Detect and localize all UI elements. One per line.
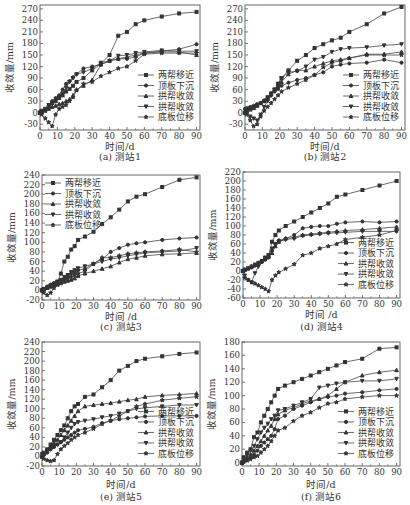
x-tick-label: 40 bbox=[105, 301, 116, 311]
panel-caption: (c) 测站3 bbox=[100, 321, 142, 332]
legend: 两帮移近顶板下沉拱帮收敛拱帮收敛底板位移 bbox=[45, 177, 101, 230]
data-point bbox=[99, 74, 103, 78]
data-point bbox=[63, 424, 66, 427]
data-point bbox=[256, 431, 259, 434]
y-tick-label: 0 bbox=[35, 451, 40, 461]
legend-label: 两帮移近 bbox=[158, 69, 194, 80]
data-point bbox=[144, 357, 147, 360]
data-point bbox=[160, 249, 164, 253]
data-point bbox=[143, 395, 147, 398]
legend-item: 拱帮收敛 bbox=[338, 268, 394, 279]
data-point bbox=[143, 415, 146, 418]
data-point bbox=[256, 438, 260, 441]
data-point bbox=[61, 88, 64, 91]
y-tick-label: 20 bbox=[229, 444, 240, 454]
data-point bbox=[100, 402, 104, 405]
data-point bbox=[378, 184, 381, 187]
data-point bbox=[92, 418, 96, 421]
panel-caption: (d) 测站4 bbox=[300, 321, 343, 332]
legend-item: 拱帮收敛 bbox=[343, 101, 399, 112]
data-point bbox=[400, 5, 403, 8]
y-tick-label: 200 bbox=[225, 176, 241, 186]
y-tick-label: 30 bbox=[232, 96, 243, 106]
data-point bbox=[276, 418, 279, 421]
data-point bbox=[135, 416, 138, 419]
x-tick-label: 80 bbox=[374, 467, 385, 477]
x-tick-label: 30 bbox=[88, 301, 99, 311]
data-point bbox=[135, 397, 139, 400]
data-point bbox=[327, 232, 331, 235]
data-point bbox=[117, 400, 121, 403]
x-tick-label: 60 bbox=[139, 131, 150, 141]
y-tick-label: 140 bbox=[24, 218, 40, 228]
y-tick-label: 270 bbox=[22, 4, 38, 14]
data-point bbox=[395, 346, 398, 349]
legend-marker-icon bbox=[144, 94, 148, 97]
x-tick-label: 60 bbox=[140, 467, 151, 477]
data-point bbox=[382, 53, 386, 57]
x-tick-label: 20 bbox=[271, 467, 282, 477]
data-point bbox=[300, 414, 304, 418]
y-tick-label: 40 bbox=[230, 248, 241, 258]
data-point bbox=[263, 414, 266, 417]
x-tick-label: 60 bbox=[340, 467, 351, 477]
data-point bbox=[339, 48, 343, 51]
data-point bbox=[378, 379, 382, 382]
legend-label: 拱帮收敛 bbox=[158, 437, 194, 448]
data-point bbox=[160, 398, 164, 402]
data-point bbox=[335, 382, 339, 385]
data-point bbox=[178, 12, 181, 15]
data-point bbox=[83, 395, 86, 398]
data-point bbox=[259, 431, 263, 434]
y-tick-label: 220 bbox=[225, 167, 241, 177]
data-point bbox=[161, 186, 164, 189]
legend-item: 拱帮收敛 bbox=[138, 90, 194, 101]
data-point bbox=[63, 260, 66, 263]
data-point bbox=[378, 233, 382, 237]
data-point bbox=[287, 81, 290, 84]
y-tick-label: 240 bbox=[24, 337, 40, 347]
x-tick-label: 20 bbox=[71, 301, 82, 311]
data-point bbox=[378, 370, 382, 373]
data-point bbox=[400, 61, 403, 64]
data-point bbox=[257, 265, 261, 268]
data-point bbox=[321, 55, 325, 58]
legend-label: 拱帮收敛 bbox=[158, 90, 194, 101]
y-tick-label: -60 bbox=[227, 293, 241, 303]
y-tick-label: 90 bbox=[232, 73, 243, 83]
legend: 两帮移近顶板下沉拱帮收敛拱帮收敛底板位移 bbox=[343, 69, 399, 122]
data-point bbox=[309, 234, 313, 237]
data-point bbox=[109, 216, 112, 219]
data-point bbox=[135, 242, 138, 245]
data-point bbox=[195, 414, 198, 417]
data-point bbox=[143, 250, 147, 254]
data-point bbox=[335, 364, 338, 367]
x-tick-label: 50 bbox=[322, 467, 333, 477]
data-point bbox=[335, 195, 338, 198]
data-point bbox=[318, 371, 321, 374]
data-point bbox=[259, 444, 262, 447]
y-tick-label: 220 bbox=[24, 180, 40, 190]
data-point bbox=[296, 59, 299, 62]
x-tick-label: 20 bbox=[274, 131, 285, 141]
data-point bbox=[266, 408, 269, 411]
data-point bbox=[339, 36, 342, 39]
data-point bbox=[143, 402, 147, 406]
data-point bbox=[283, 384, 286, 387]
y-tick-label: -20 bbox=[26, 461, 40, 471]
legend: 两帮移近顶板下沉拱帮收敛拱帮收敛底板位移 bbox=[338, 237, 394, 290]
x-tick-label: 0 bbox=[39, 301, 44, 311]
data-point bbox=[395, 228, 399, 232]
data-point bbox=[382, 44, 386, 47]
data-point bbox=[69, 275, 73, 279]
data-point bbox=[322, 43, 325, 46]
legend-marker-icon bbox=[350, 74, 353, 77]
data-point bbox=[383, 58, 386, 61]
legend-marker-icon bbox=[144, 420, 147, 423]
legend-item: 两帮移近 bbox=[343, 69, 399, 80]
data-point bbox=[259, 421, 262, 424]
data-point bbox=[318, 224, 321, 227]
x-tick-label: 40 bbox=[105, 467, 116, 477]
data-point bbox=[318, 233, 322, 236]
x-tick-label: 70 bbox=[156, 131, 167, 141]
